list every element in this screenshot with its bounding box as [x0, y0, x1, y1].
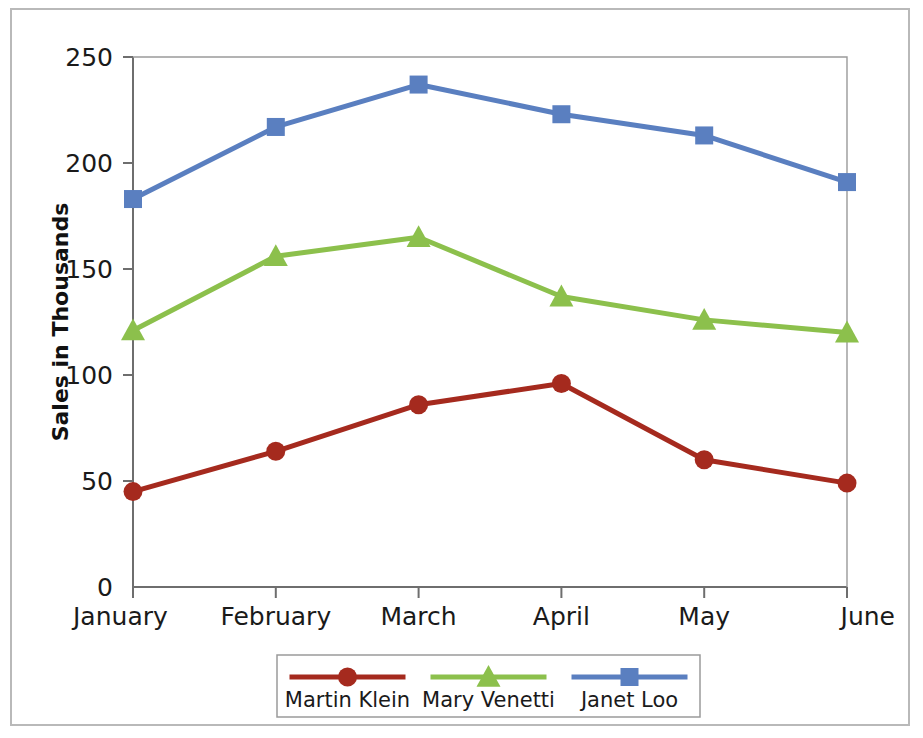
series-line [133, 85, 847, 199]
x-axis-category-labels: JanuaryFebruaryMarchAprilMayJune [71, 602, 895, 631]
data-point-square-marker [621, 668, 639, 686]
data-point-triangle-marker [121, 318, 145, 340]
chart-svg: Sales in Thousands 050100150200250 Janua… [0, 0, 923, 738]
y-tick-label: 50 [81, 467, 113, 496]
x-category-label: February [220, 602, 331, 631]
data-point-circle-marker [695, 450, 714, 469]
data-point-square-marker [267, 118, 285, 136]
data-point-circle-marker [838, 474, 857, 493]
data-point-square-marker [410, 76, 428, 94]
data-point-circle-marker [552, 374, 571, 393]
y-axis-title: Sales in Thousands [48, 203, 73, 442]
data-point-circle-marker [266, 442, 285, 461]
data-point-circle-marker [124, 482, 143, 501]
x-category-label: May [678, 602, 730, 631]
legend-label: Martin Klein [285, 688, 410, 712]
data-point-square-marker [695, 126, 713, 144]
series-line [133, 237, 847, 332]
data-point-square-marker [838, 173, 856, 191]
x-category-label: January [71, 602, 168, 631]
data-point-circle-marker [338, 668, 357, 687]
y-tick-label: 200 [65, 149, 113, 178]
x-category-label: April [533, 602, 590, 631]
data-point-square-marker [124, 190, 142, 208]
line-chart: Sales in Thousands 050100150200250 Janua… [0, 0, 923, 738]
legend-label: Janet Loo [579, 688, 678, 712]
chart-legend: Martin KleinMary VenettiJanet Loo [277, 655, 700, 717]
series-group [124, 76, 856, 208]
chart-page: Sales in Thousands 050100150200250 Janua… [0, 0, 923, 738]
legend-label: Mary Venetti [422, 688, 555, 712]
y-tick-label: 100 [65, 361, 113, 390]
plot-series-group [121, 76, 859, 502]
series-line [133, 383, 847, 491]
y-tick-label: 0 [97, 573, 113, 602]
series-group [121, 225, 859, 342]
data-point-circle-marker [409, 395, 428, 414]
y-tick-label: 150 [65, 255, 113, 284]
x-category-label: March [380, 602, 456, 631]
x-category-label: June [839, 602, 895, 631]
data-point-square-marker [552, 105, 570, 123]
y-tick-label: 250 [65, 43, 113, 72]
chart-axes [123, 57, 847, 598]
series-group [124, 374, 857, 501]
